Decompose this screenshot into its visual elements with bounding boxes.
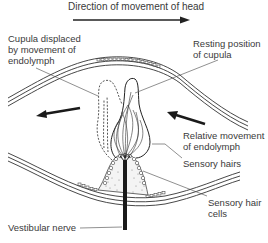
displaced-endolymph-arrow <box>36 108 80 118</box>
vestibular-nerve-label: Vestibular nerve <box>8 222 76 233</box>
resting-position-label: Resting position of cupula <box>193 38 261 60</box>
sensory-hairs-label: Sensory hairs <box>183 158 241 169</box>
upper-wall-cells <box>97 58 160 68</box>
displaced-cupula <box>97 80 122 160</box>
head-direction-arrow <box>73 17 190 24</box>
cupula-displaced-label: Cupula displaced by movement of endolymp… <box>8 33 81 66</box>
sensory-hair-cells-label: Sensory hair cells <box>208 197 261 219</box>
relative-movement-arrow <box>167 111 205 124</box>
vestibular-nerve <box>123 160 127 230</box>
head-direction-label: Direction of movement of head <box>68 1 204 12</box>
upper-canal-wall <box>8 57 248 130</box>
relative-movement-label: Relative movement of endolymph <box>183 130 264 152</box>
